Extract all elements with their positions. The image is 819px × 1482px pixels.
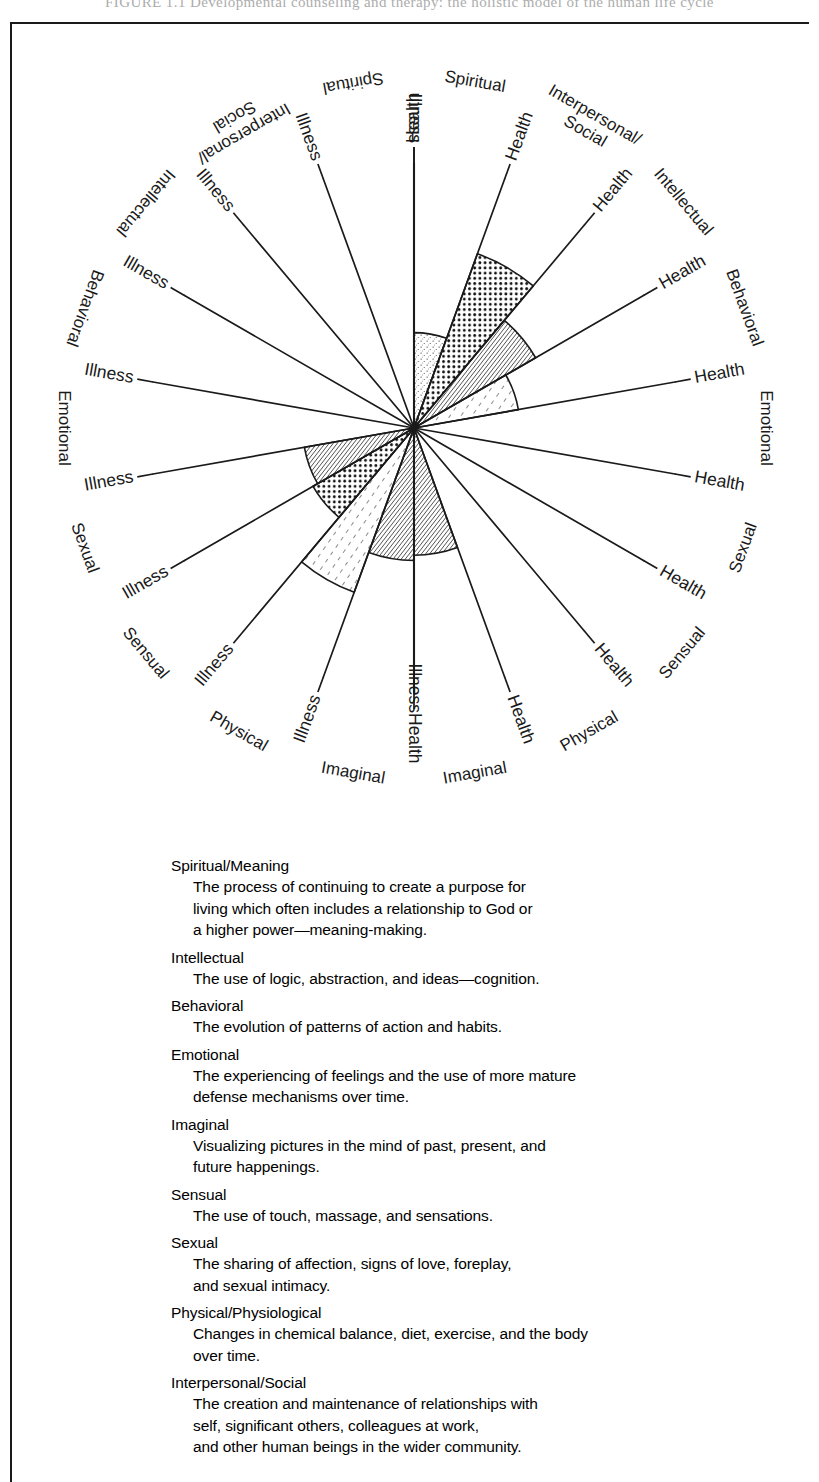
- dimension-label-interpersonal-social: Interpersonal/Social: [535, 81, 644, 166]
- dimension-label-intellectual: Intellectual: [650, 164, 717, 238]
- dimension-label-sexual: Sexual: [67, 520, 103, 575]
- rim-tick: [675, 474, 691, 477]
- rim-tick: [137, 379, 153, 382]
- rim-tick: [505, 677, 510, 692]
- spoke-line: [244, 225, 414, 428]
- legend-definitions: Spiritual/MeaningThe process of continui…: [171, 855, 691, 1464]
- illness-label: Illness: [405, 663, 425, 713]
- legend-entry-title: Spiritual/Meaning: [171, 855, 691, 876]
- legend-entry-description: Changes in chemical balance, diet, exerc…: [193, 1323, 691, 1366]
- legend-entry: SexualThe sharing of affection, signs of…: [171, 1232, 691, 1296]
- legend-entry: EmotionalThe experiencing of feelings an…: [171, 1044, 691, 1108]
- legend-entry-line: and other human beings in the wider comm…: [193, 1436, 691, 1458]
- illness-label: Illness: [291, 110, 327, 164]
- legend-entry-description: The experiencing of feelings and the use…: [193, 1065, 691, 1108]
- health-label: Health: [657, 561, 711, 604]
- dimension-label-emotional: Emotional: [55, 390, 74, 466]
- rim-tick: [505, 164, 510, 179]
- dimension-label-imaginal: Imaginal: [320, 758, 387, 788]
- illness-label: Illness: [192, 164, 239, 215]
- legend-entry-description: The creation and maintenance of relation…: [193, 1393, 691, 1458]
- legend-entry-description: The use of touch, massage, and sensation…: [193, 1205, 691, 1227]
- legend-entry-title: Imaginal: [171, 1114, 691, 1135]
- legend-entry-line: The evolution of patterns of action and …: [193, 1016, 691, 1038]
- rim-tick: [584, 213, 594, 225]
- health-label: Health: [693, 359, 746, 387]
- rim-tick: [233, 213, 243, 225]
- legend-entry: ImaginalVisualizing pictures in the mind…: [171, 1114, 691, 1178]
- illness-label: Illness: [289, 692, 325, 746]
- legend-entry-line: a higher power—meaning-making.: [193, 919, 691, 941]
- rim-tick: [584, 631, 594, 643]
- legend-entry-line: over time.: [193, 1345, 691, 1367]
- holistic-wheel-figure: HealthHealthHealthHealthHealthHealthHeal…: [0, 22, 819, 812]
- legend-entry-line: The process of continuing to create a pu…: [193, 876, 691, 898]
- dimension-label-behavioral: Behavioral: [722, 267, 767, 349]
- legend-entry-description: The process of continuing to create a pu…: [193, 876, 691, 941]
- health-label: Health: [501, 109, 537, 163]
- legend-entry-description: The use of logic, abstraction, and ideas…: [193, 968, 691, 990]
- legend-entry: IntellectualThe use of logic, abstractio…: [171, 947, 691, 990]
- legend-entry-title: Behavioral: [171, 995, 691, 1016]
- illness-label: Illness: [119, 561, 172, 603]
- dimension-label-sexual: Sexual: [725, 520, 761, 575]
- legend-entry: Spiritual/MeaningThe process of continui…: [171, 855, 691, 941]
- dimension-label-sensual: Sensual: [655, 623, 709, 682]
- rim-tick: [171, 288, 185, 296]
- dimension-label-imaginal: Imaginal: [441, 758, 508, 788]
- dimension-label-intellectual: Intellectual: [112, 166, 179, 240]
- dimension-label-sensual: Sensual: [119, 623, 173, 682]
- rim-tick: [644, 561, 658, 569]
- legend-entry-line: The creation and maintenance of relation…: [193, 1393, 691, 1415]
- legend-entry-line: The use of logic, abstraction, and ideas…: [193, 968, 691, 990]
- legend-entry-line: defense mechanisms over time.: [193, 1086, 691, 1108]
- rim-tick: [233, 631, 243, 643]
- health-label: Health: [405, 713, 425, 764]
- rim-tick: [318, 677, 323, 692]
- spoke-line: [323, 179, 414, 428]
- legend-entry-line: future happenings.: [193, 1156, 691, 1178]
- rim-tick: [675, 379, 691, 382]
- dimension-label-behavioral: Behavioral: [62, 267, 107, 349]
- legend-entry-line: Changes in chemical balance, diet, exerc…: [193, 1323, 691, 1345]
- legend-entry-title: Sexual: [171, 1232, 691, 1253]
- legend-entry: Interpersonal/SocialThe creation and mai…: [171, 1372, 691, 1458]
- legend-entry-title: Physical/Physiological: [171, 1302, 691, 1323]
- legend-entry-line: living which often includes a relationsh…: [193, 898, 691, 920]
- dimension-label-interpersonal-social: Interpersonal/Social: [184, 82, 293, 167]
- legend-entry-line: Visualizing pictures in the mind of past…: [193, 1135, 691, 1157]
- illness-label: Illness: [190, 639, 237, 690]
- legend-entry-description: The sharing of affection, signs of love,…: [193, 1253, 691, 1296]
- legend-entry-description: The evolution of patterns of action and …: [193, 1016, 691, 1038]
- legend-entry-line: and sexual intimacy.: [193, 1275, 691, 1297]
- legend-entry-description: Visualizing pictures in the mind of past…: [193, 1135, 691, 1178]
- legend-entry: SensualThe use of touch, massage, and se…: [171, 1184, 691, 1227]
- illness-label: Illness: [405, 93, 425, 143]
- health-label: Health: [588, 164, 636, 216]
- rim-tick: [644, 288, 658, 296]
- rim-tick: [318, 164, 323, 179]
- illness-label: Illness: [82, 466, 135, 494]
- dimension-label-spiritual: Spiritual: [321, 69, 385, 98]
- legend-entry: BehavioralThe evolution of patterns of a…: [171, 995, 691, 1038]
- wheel-diagram: HealthHealthHealthHealthHealthHealthHeal…: [0, 22, 819, 812]
- rim-tick: [137, 474, 153, 477]
- illness-label: Illness: [83, 359, 136, 387]
- legend-entry-line: The use of touch, massage, and sensation…: [193, 1205, 691, 1227]
- rim-tick: [171, 561, 185, 569]
- legend-entry-title: Sensual: [171, 1184, 691, 1205]
- health-label: Health: [591, 639, 639, 691]
- legend-entry-line: The experiencing of feelings and the use…: [193, 1065, 691, 1087]
- legend-entry-title: Intellectual: [171, 947, 691, 968]
- health-label: Health: [655, 250, 709, 293]
- legend-entry: Physical/PhysiologicalChanges in chemica…: [171, 1302, 691, 1366]
- dimension-label-spiritual: Spiritual: [443, 67, 507, 96]
- dimension-label-emotional: Emotional: [757, 390, 776, 466]
- running-head: FIGURE 1.1 Developmental counseling and …: [0, 0, 819, 14]
- legend-entry-title: Interpersonal/Social: [171, 1372, 691, 1393]
- legend-entry-title: Emotional: [171, 1044, 691, 1065]
- legend-entry-line: self, significant others, colleagues at …: [193, 1415, 691, 1437]
- dimension-label-physical: Physical: [207, 707, 271, 755]
- health-label: Health: [693, 466, 746, 494]
- dimension-label-physical: Physical: [557, 707, 621, 755]
